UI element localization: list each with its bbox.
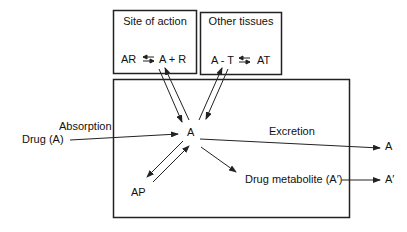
excreted-a-label: A: [385, 140, 393, 152]
a-plus-r-label: A + R: [159, 53, 186, 65]
body-compartment-box: [114, 80, 350, 218]
from-site-arrow: [165, 68, 189, 120]
to-ap-arrow: [147, 141, 183, 177]
excretion-label: Excretion: [269, 125, 315, 137]
from-ap-arrow: [153, 146, 189, 182]
other-tissues-title: Other tissues: [209, 15, 274, 27]
equilibrium-arrows-icon: [143, 55, 154, 63]
site-of-action-title: Site of action: [123, 15, 187, 27]
other-tissues-box: Other tissues A - T AT: [201, 13, 282, 75]
ap-label: AP: [131, 186, 146, 198]
absorption-arrow: [70, 134, 178, 140]
from-tissue-arrow: [206, 69, 228, 119]
at-label: AT: [257, 54, 271, 66]
absorption-label: Absorption: [59, 120, 112, 132]
excreted-metabolite-label: A′: [385, 173, 394, 185]
to-site-arrow: [159, 69, 182, 122]
ar-label: AR: [121, 53, 136, 65]
metabolism-arrow: [201, 147, 236, 172]
center-a-label: A: [187, 126, 195, 138]
drug-label: Drug (A): [22, 133, 64, 145]
metabolite-label: Drug metabolite (A′): [245, 173, 342, 185]
site-of-action-box: Site of action AR A + R: [114, 11, 197, 74]
pharmacokinetics-diagram: Site of action AR A + R Other tissues A …: [0, 0, 407, 232]
to-tissue-arrow: [199, 68, 222, 120]
equilibrium-arrows-icon: [239, 56, 250, 64]
excretion-arrow: [200, 139, 380, 148]
a-t-label: A - T: [211, 54, 234, 66]
